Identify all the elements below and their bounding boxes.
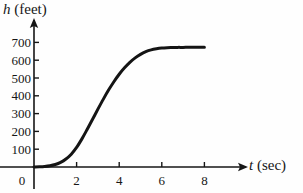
x-tick-label: 4 — [111, 174, 127, 187]
y-tick-label: 400 — [1, 89, 31, 102]
chart-figure: h (feet) t (sec) 100200300400500600700 2… — [0, 0, 303, 193]
y-tick-label: 700 — [1, 36, 31, 49]
y-tick-label: 600 — [1, 54, 31, 67]
x-tick-label: 8 — [196, 174, 212, 187]
data-curve — [34, 47, 204, 167]
y-tick-label: 300 — [1, 107, 31, 120]
x-axis-label: t (sec) — [249, 158, 286, 173]
origin-label: 0 — [14, 174, 30, 187]
y-axis-variable: h — [3, 1, 11, 17]
ticks-layer — [34, 42, 204, 167]
y-axis-label: h (feet) — [3, 2, 47, 17]
axes-layer — [0, 18, 248, 189]
y-axis-units: (feet) — [14, 1, 46, 17]
data-curve-layer — [34, 47, 204, 167]
x-axis-units: (sec) — [257, 157, 286, 173]
y-tick-label: 500 — [1, 72, 31, 85]
x-tick-label: 2 — [69, 174, 85, 187]
y-tick-label: 200 — [1, 125, 31, 138]
y-tick-label: 100 — [1, 143, 31, 156]
x-tick-label: 6 — [154, 174, 170, 187]
